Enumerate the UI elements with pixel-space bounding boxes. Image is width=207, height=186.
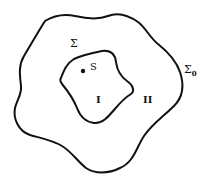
source-point-label: S [90, 61, 97, 72]
region-1-label: I [96, 94, 101, 105]
region-2-label: II [143, 94, 153, 105]
diagram-canvas: S Σ Σ0 I II [0, 0, 207, 186]
outer-curve-label-subscript: 0 [192, 69, 197, 78]
diagram-svg: S Σ Σ0 I II [0, 0, 207, 186]
source-point-dot [81, 69, 85, 73]
outer-curve-label: Σ0 [184, 63, 197, 78]
inner-curve-label: Σ [70, 37, 78, 50]
